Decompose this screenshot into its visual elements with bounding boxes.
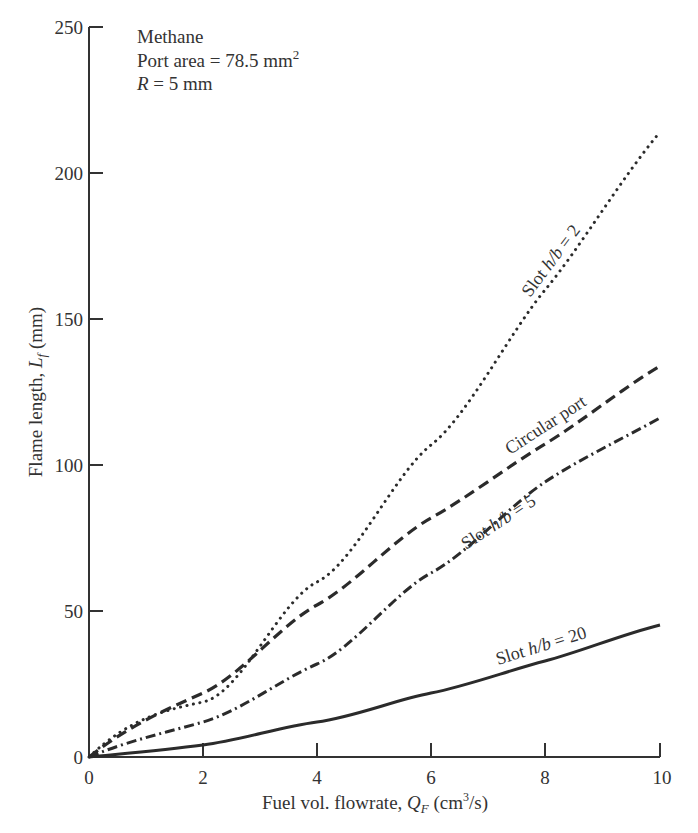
x-tick-labels: 0 2 4 6 8 10 <box>84 767 671 788</box>
y-axis-title: Flame length, Lf (mm) <box>25 307 49 477</box>
series-circular-port-line <box>89 366 660 757</box>
y-tick-label: 50 <box>64 601 83 622</box>
y-tick-label: 200 <box>55 163 84 184</box>
y-tick-label: 0 <box>74 747 84 768</box>
series-slot-hb5-line <box>89 418 660 757</box>
x-tick-label: 10 <box>653 767 672 788</box>
flame-length-chart: 0 50 100 150 200 250 0 2 4 6 8 10 Fuel v… <box>0 0 698 833</box>
x-tick-label: 8 <box>540 767 550 788</box>
x-axis-title: Fuel vol. flowrate, QF (cm3/s) <box>262 790 488 816</box>
y-tick-labels: 0 50 100 150 200 250 <box>55 17 84 768</box>
x-tick-label: 0 <box>84 767 94 788</box>
series-label-slot-hb5: Slot h/b = 5 <box>457 490 539 553</box>
series-label-circular-port: Circular port <box>501 391 589 458</box>
x-tick-label: 2 <box>198 767 208 788</box>
axes <box>89 27 660 757</box>
x-tick-label: 6 <box>426 767 436 788</box>
y-tick-label: 150 <box>55 309 84 330</box>
y-tick-label: 100 <box>55 455 84 476</box>
series-label-slot-hb2: Slot h/b = 2 <box>517 221 584 301</box>
annotation-block: Methane Port area = 78.5 mm2 R = 5 mm <box>136 26 299 94</box>
x-tick-label: 4 <box>312 767 322 788</box>
annotation-port-area: Port area = 78.5 mm2 <box>137 47 299 71</box>
annotation-fuel: Methane <box>137 26 203 47</box>
annotation-radius: R = 5 mm <box>136 73 213 94</box>
y-tick-label: 250 <box>55 17 84 38</box>
